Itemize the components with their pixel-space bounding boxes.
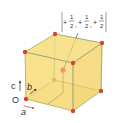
bcc-unit-cell-diagram: c b O a + 1 2 , + 1 2 , + 1 2 — [0, 0, 130, 123]
atom-corner — [53, 32, 57, 36]
atom-corner — [71, 61, 75, 65]
atom-corner — [100, 41, 104, 45]
numerator: 1 — [100, 14, 104, 20]
separator: , — [90, 21, 92, 28]
denominator: 2 — [85, 23, 89, 29]
axis-label-b: b — [27, 82, 32, 92]
atom-corner — [23, 50, 27, 54]
axis-label-c: c — [11, 81, 16, 91]
denominator: 2 — [70, 23, 74, 29]
atom-corner — [99, 89, 103, 93]
denominator: 2 — [100, 23, 104, 29]
atom-corner-origin — [24, 97, 28, 101]
origin-label: O — [12, 95, 19, 105]
axis-label-a: a — [21, 107, 26, 117]
sign: + — [93, 19, 97, 26]
atom-corner — [71, 109, 75, 113]
coordinate-label: + 1 2 , + 1 2 , + 1 2 — [62, 12, 106, 32]
separator: , — [75, 21, 77, 28]
arrowhead-icon — [19, 80, 21, 83]
numerator: 1 — [70, 14, 74, 20]
sign: + — [78, 19, 82, 26]
numerator: 1 — [85, 14, 89, 20]
arrowhead-icon — [32, 107, 35, 109]
sign: + — [63, 19, 67, 26]
